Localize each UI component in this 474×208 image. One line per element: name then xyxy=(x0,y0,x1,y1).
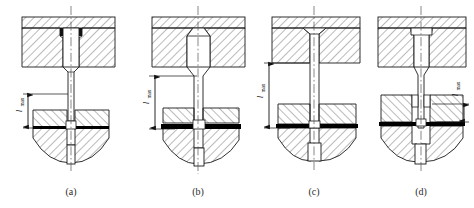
panel-c: l max xyxy=(255,6,360,170)
engineering-figure: l max xyxy=(0,0,474,208)
caption-a: (a) xyxy=(65,186,76,198)
dim-sub-c: max xyxy=(260,83,266,92)
caption-b: (b) xyxy=(192,186,204,198)
figure-svg: l max xyxy=(0,0,474,208)
panel-b: l max xyxy=(141,6,245,174)
dim-label-a: l xyxy=(14,109,24,112)
dim-sub-d: max xyxy=(455,81,461,90)
panel-d: l max xyxy=(378,6,469,172)
dim-sub-b: max xyxy=(146,89,152,98)
punch-d xyxy=(411,28,432,128)
panel-a: l max xyxy=(14,6,115,172)
dim-label-c: l xyxy=(255,95,265,98)
dim-label-d: l xyxy=(450,93,460,96)
dim-sub-a: max xyxy=(19,97,25,106)
dim-label-b: l xyxy=(141,101,151,104)
caption-d: (d) xyxy=(415,186,427,198)
caption-c: (c) xyxy=(308,186,319,198)
